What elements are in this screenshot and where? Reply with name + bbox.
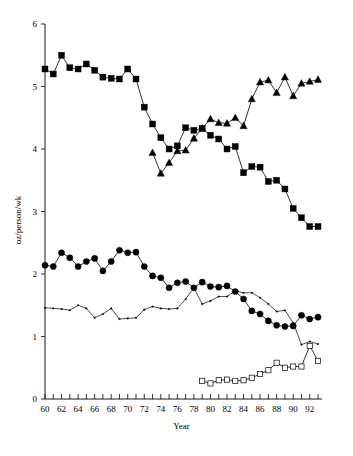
marker-filled-square [241,170,247,176]
x-tick-label: 68 [107,404,117,414]
marker-small-dot [152,306,154,308]
marker-small-dot [226,296,228,298]
marker-filled-square [315,224,321,230]
marker-open-square [200,378,205,383]
marker-filled-square [290,205,296,211]
x-tick-label: 78 [189,404,199,414]
y-tick-label: 4 [33,144,38,154]
marker-open-square [224,377,229,382]
marker-small-dot [301,344,303,346]
x-tick-label: 72 [140,404,149,414]
marker-filled-circle [282,323,288,329]
marker-filled-square [125,66,131,72]
x-tick-label: 74 [156,404,166,414]
marker-small-dot [317,343,319,345]
x-tick-label: 76 [173,404,183,414]
marker-filled-square [232,144,238,150]
marker-filled-square [207,132,213,138]
marker-filled-square [59,52,65,58]
marker-small-dot [61,308,63,310]
marker-filled-circle [42,262,48,268]
x-tick-label: 92 [305,404,314,414]
x-tick-label: 80 [206,404,216,414]
marker-filled-square [100,74,106,80]
marker-small-dot [44,307,46,309]
y-tick-label: 5 [33,82,38,92]
marker-filled-circle [158,275,164,281]
marker-open-square [266,368,271,373]
marker-filled-circle [274,322,280,328]
line-chart-svg: 0123456 60626466687072747678808284868890… [0,0,353,456]
marker-small-dot [268,303,270,305]
marker-filled-square [42,66,48,72]
marker-filled-circle [265,318,271,324]
marker-small-dot [193,287,195,289]
marker-filled-circle [83,258,89,264]
marker-filled-square [257,164,263,170]
marker-filled-square [298,215,304,221]
marker-filled-circle [116,247,122,253]
marker-open-square [257,371,262,376]
marker-filled-square [265,179,271,185]
x-tick-label: 84 [239,404,249,414]
marker-small-dot [185,298,187,300]
y-tick-label: 3 [33,207,38,217]
marker-filled-circle [141,263,147,269]
marker-filled-circle [315,314,321,320]
marker-filled-circle [166,285,172,291]
marker-small-dot [251,292,253,294]
marker-filled-square [166,146,172,152]
chart-figure: 0123456 60626466687072747678808284868890… [0,0,353,456]
marker-open-square [274,360,279,365]
marker-filled-square [307,224,313,230]
marker-small-dot [77,304,79,306]
y-tick-label: 2 [33,269,38,279]
marker-small-dot [168,308,170,310]
marker-small-dot [234,290,236,292]
marker-small-dot [94,317,96,319]
marker-filled-square [116,76,122,82]
marker-filled-circle [149,273,155,279]
marker-filled-circle [257,311,263,317]
marker-open-square [315,358,320,363]
marker-filled-circle [100,268,106,274]
marker-open-square [282,365,287,370]
y-tick-label: 0 [33,394,38,404]
marker-small-dot [292,322,294,324]
x-axis-title: Year [173,421,190,431]
marker-filled-square [141,104,147,110]
marker-small-dot [259,297,261,299]
marker-small-dot [69,309,71,311]
marker-filled-square [67,65,73,71]
marker-filled-circle [216,284,222,290]
marker-filled-square [108,75,114,81]
marker-small-dot [135,317,137,319]
marker-filled-circle [133,249,139,255]
marker-small-dot [177,308,179,310]
marker-small-dot [127,318,129,320]
marker-filled-circle [75,263,81,269]
y-tick-label: 6 [33,19,38,29]
marker-filled-square [92,67,98,73]
marker-small-dot [86,308,88,310]
marker-small-dot [110,308,112,310]
x-tick-label: 64 [74,404,84,414]
marker-filled-circle [50,263,56,269]
marker-small-dot [276,311,278,313]
x-tick-label: 88 [272,404,282,414]
marker-open-square [307,343,312,348]
marker-filled-square [75,66,81,72]
marker-filled-square [224,146,230,152]
marker-filled-circle [199,279,205,285]
marker-small-dot [160,308,162,310]
marker-filled-square [83,61,89,67]
marker-open-square [208,381,213,386]
marker-small-dot [143,309,145,311]
y-axis-title: oz/person/wk [13,195,23,244]
marker-filled-circle [207,283,213,289]
marker-filled-circle [108,258,114,264]
marker-open-square [241,378,246,383]
marker-filled-circle [298,312,304,318]
marker-small-dot [309,341,311,343]
x-tick-label: 62 [57,404,66,414]
